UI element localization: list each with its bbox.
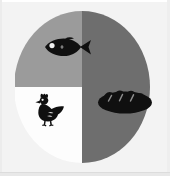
page-edge-bottom — [0, 172, 170, 176]
page-edge-top — [0, 0, 170, 2]
page-edge-left — [0, 0, 2, 176]
caption-fragment: s: — [0, 40, 6, 52]
pie-chart — [15, 11, 152, 164]
page-edge-right — [167, 0, 170, 176]
pie-slice-bread[interactable] — [82, 11, 150, 163]
figure-page: s: — [0, 0, 170, 176]
pie-slice-chicken[interactable] — [15, 87, 82, 163]
pie-slice-fish[interactable] — [15, 11, 82, 87]
